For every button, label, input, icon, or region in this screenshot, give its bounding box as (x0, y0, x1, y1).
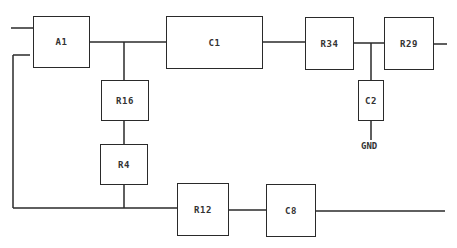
gnd-label: GND (361, 141, 377, 151)
component-label: R29 (400, 39, 418, 49)
component-r4: R4 (100, 144, 148, 185)
component-label: R4 (118, 160, 130, 170)
component-label: A1 (56, 37, 68, 47)
component-r29: R29 (384, 17, 434, 70)
component-c1: C1 (166, 16, 263, 69)
component-label: R34 (321, 39, 339, 49)
component-label: C8 (285, 206, 297, 216)
component-label: C1 (209, 38, 221, 48)
component-r12: R12 (177, 183, 229, 236)
component-a1: A1 (33, 16, 90, 68)
component-label: C2 (365, 96, 377, 106)
component-r34: R34 (305, 17, 354, 70)
component-label: R12 (194, 205, 212, 215)
component-c8: C8 (266, 184, 316, 237)
component-r16: R16 (101, 80, 149, 121)
component-label: R16 (116, 96, 134, 106)
circuit-diagram: A1 C1 R34 R29 R16 R4 C2 R12 C8 GND (0, 0, 457, 248)
component-c2: C2 (358, 80, 384, 121)
